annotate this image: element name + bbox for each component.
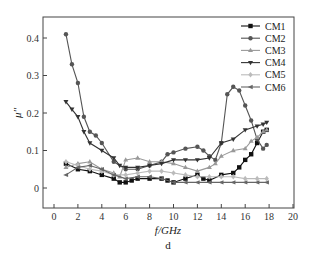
x-tick-label: 8 (147, 211, 152, 222)
y-tick-label: 0.2 (27, 108, 40, 119)
panel-label: d (165, 239, 171, 251)
x-tick-label: 20 (288, 211, 298, 222)
marker (230, 180, 235, 184)
marker (82, 115, 86, 119)
marker (171, 170, 175, 176)
legend-label: CM4 (265, 57, 286, 68)
x-tick-label: 14 (216, 211, 226, 222)
x-tick-label: 16 (240, 211, 250, 222)
marker (63, 173, 68, 177)
marker (118, 180, 122, 184)
legend-label: CM2 (265, 33, 286, 44)
marker (249, 118, 253, 122)
marker (248, 85, 253, 89)
x-tick-label: 0 (52, 211, 57, 222)
marker (201, 148, 205, 152)
marker (159, 168, 163, 174)
marker (70, 62, 74, 66)
marker (94, 133, 98, 137)
legend-label: CM6 (265, 82, 286, 93)
y-tick-label: 0.1 (27, 145, 40, 156)
marker (195, 180, 200, 184)
marker (195, 145, 199, 149)
marker (231, 85, 235, 89)
marker (165, 152, 169, 156)
marker (219, 180, 224, 184)
series-cm2 (64, 32, 269, 171)
series-line (66, 34, 267, 169)
marker (265, 143, 269, 147)
legend: CM1CM2CM3CM4CM5CM6 (241, 21, 286, 93)
x-tick-label: 2 (75, 211, 80, 222)
marker (243, 158, 247, 162)
x-tick-label: 18 (264, 211, 274, 222)
x-tick-label: 4 (99, 211, 104, 222)
legend-item-cm5: CM5 (241, 69, 286, 80)
marker (225, 92, 229, 96)
legend-item-cm4: CM4 (241, 57, 286, 68)
marker (248, 36, 252, 40)
marker (87, 159, 92, 163)
marker (183, 180, 188, 184)
marker (248, 72, 252, 78)
x-tick-label: 6 (123, 211, 128, 222)
legend-label: CM5 (265, 69, 286, 80)
marker (147, 168, 151, 174)
marker (64, 32, 68, 36)
marker (243, 103, 247, 107)
legend-item-cm6: CM6 (241, 82, 286, 93)
marker (76, 81, 80, 85)
x-tick-label: 12 (192, 211, 202, 222)
legend-item-cm1: CM1 (241, 21, 286, 32)
y-tick-label: 0.4 (27, 33, 40, 44)
marker (249, 152, 253, 156)
x-tick-label: 10 (169, 211, 179, 222)
legend-label: CM1 (265, 21, 286, 32)
marker (100, 141, 104, 145)
marker (135, 155, 140, 159)
y-tick-label: 0 (34, 183, 39, 194)
marker (129, 178, 133, 182)
x-axis-title: f/GHz (155, 224, 182, 236)
marker (124, 180, 128, 184)
chart: 0246810121416182000.10.20.30.4f/GHzμ''dC… (0, 0, 309, 254)
marker (248, 24, 252, 28)
marker (237, 165, 241, 169)
legend-item-cm2: CM2 (241, 33, 286, 44)
y-axis-title: μ'' (11, 107, 23, 119)
marker (171, 150, 175, 154)
legend-item-cm3: CM3 (241, 45, 286, 56)
marker (88, 130, 92, 134)
y-tick-label: 0.3 (27, 70, 40, 81)
series-line (66, 166, 267, 183)
marker (183, 146, 187, 150)
marker (237, 88, 241, 92)
legend-label: CM3 (265, 45, 286, 56)
marker (261, 146, 265, 150)
marker (75, 115, 80, 119)
marker (81, 130, 86, 134)
